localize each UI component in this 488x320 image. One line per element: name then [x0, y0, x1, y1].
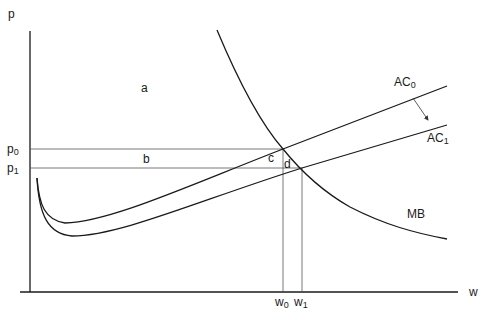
shift-arrow: [413, 98, 428, 120]
y-axis-label: p: [8, 7, 15, 21]
region-a-label: a: [141, 81, 148, 95]
w1-label: w1: [293, 295, 308, 310]
p0-label: p0: [7, 142, 19, 157]
ac0-label: AC0: [394, 75, 416, 90]
mb-label: MB: [407, 207, 425, 221]
cost-benefit-diagram: p w p0 p1 w0 w1 AC0 AC1 MB a b c d: [0, 0, 488, 320]
ac1-curve: [37, 125, 447, 236]
region-b-label: b: [143, 152, 150, 166]
x-axis-label: w: [468, 285, 478, 299]
p1-label: p1: [7, 161, 19, 176]
region-c-label: c: [268, 151, 274, 165]
ac1-label: AC1: [427, 131, 449, 146]
w0-label: w0: [274, 295, 289, 310]
region-d-label: d: [284, 157, 291, 171]
ac0-curve: [37, 86, 447, 223]
